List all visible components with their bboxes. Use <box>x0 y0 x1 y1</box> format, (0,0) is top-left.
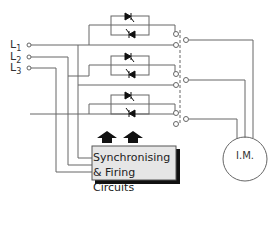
phase-2-branch <box>68 56 176 85</box>
bypass-switch-1[interactable] <box>174 32 189 48</box>
phase-3-branch <box>30 95 176 114</box>
supply-line-l2 <box>27 55 68 76</box>
label-l3: L3 <box>10 61 21 76</box>
bypass-switch-3[interactable] <box>174 111 189 127</box>
control-box-line-2: & Firing Circuits <box>93 165 177 195</box>
supply-line-l1 <box>27 43 78 47</box>
control-box-line-1: Synchronising <box>93 150 177 165</box>
control-box-label: Synchronising & Firing Circuits <box>93 150 177 195</box>
supply-line-l3 <box>27 66 56 172</box>
gate-signal-arrow-1 <box>97 131 117 143</box>
bypass-switch-2[interactable] <box>174 72 189 88</box>
gate-signal-arrow-2 <box>123 131 143 143</box>
motor-label: I.M. <box>230 150 260 161</box>
